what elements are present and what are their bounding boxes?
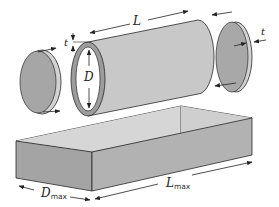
label-d: D — [83, 70, 94, 84]
left-end-cap — [20, 50, 61, 114]
right-cap-top-arrow — [212, 12, 232, 15]
right-end-cap — [216, 22, 252, 92]
label-t-tube: t — [64, 37, 69, 48]
rectangular-box — [16, 106, 252, 191]
diagram-canvas: Dmax Lmax D t L — [0, 0, 279, 207]
label-d-max: Dmax — [40, 186, 68, 201]
label-l: L — [132, 14, 141, 28]
cylinder-tube — [71, 20, 214, 116]
label-t-cap: t — [261, 26, 266, 37]
label-l-max: Lmax — [165, 176, 191, 191]
